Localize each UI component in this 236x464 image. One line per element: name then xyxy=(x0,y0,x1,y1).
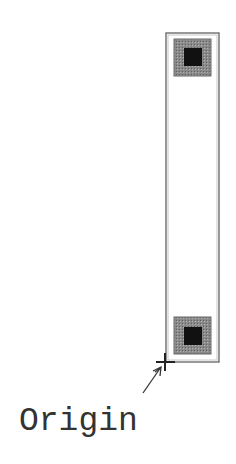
bottom-pad-contact xyxy=(184,327,202,345)
top-pad-contact xyxy=(184,48,202,66)
origin-label: Origin xyxy=(19,402,138,442)
layout-diagram xyxy=(0,0,236,464)
origin-arrow-icon xyxy=(143,367,161,393)
top-pad xyxy=(174,39,211,76)
body-rectangle xyxy=(166,33,219,362)
bottom-pad xyxy=(174,317,211,354)
